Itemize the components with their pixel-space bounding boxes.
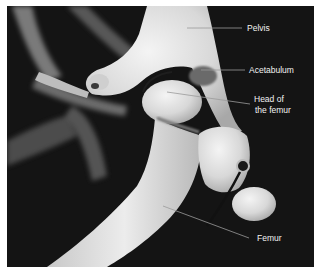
label-acetabulum: Acetabulum [249,65,294,75]
label-head-of-femur-line1: Head of [254,94,284,104]
bone-illustration [7,6,314,267]
label-pelvis: Pelvis [247,23,270,33]
label-femur: Femur [257,233,282,243]
hip-joint-photo: Pelvis Acetabulum Head of the femur Femu… [7,6,314,267]
label-head-of-femur-line2: the femur [255,105,291,115]
